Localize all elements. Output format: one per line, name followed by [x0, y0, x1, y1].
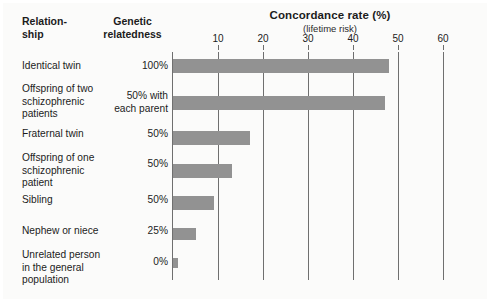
x-axis-tick-mark-30 — [308, 45, 309, 50]
row-genetic-relatedness-5: 25% — [96, 225, 168, 238]
row-label-6-line-3: population — [22, 274, 117, 287]
x-axis-tick-label-20: 20 — [257, 33, 268, 44]
x-axis-tick-label-30: 30 — [302, 33, 313, 44]
bar-3 — [173, 164, 232, 178]
row-genetic-relatedness-1-line-2: each parent — [96, 103, 168, 116]
row-genetic-relatedness-6-line-1: 0% — [96, 256, 168, 269]
bar-6 — [173, 258, 178, 268]
row-label-3-line-3: patient — [22, 177, 117, 190]
row-genetic-relatedness-3: 50% — [96, 158, 168, 171]
gridline-30 — [308, 52, 309, 280]
row-genetic-relatedness-4-line-1: 50% — [96, 194, 168, 207]
x-axis-tick-mark-20 — [263, 45, 264, 50]
x-axis-tick-label-40: 40 — [347, 33, 358, 44]
row-genetic-relatedness-2-line-1: 50% — [96, 128, 168, 141]
x-axis-tick-mark-10 — [218, 45, 219, 50]
x-axis-tick-label-60: 60 — [437, 33, 448, 44]
row-genetic-relatedness-1-line-1: 50% with — [96, 90, 168, 103]
row-genetic-relatedness-2: 50% — [96, 128, 168, 141]
x-axis-tick-label-50: 50 — [392, 33, 403, 44]
row-genetic-relatedness-3-line-1: 50% — [96, 158, 168, 171]
bar-1 — [173, 96, 385, 110]
row-genetic-relatedness-1: 50% witheach parent — [96, 90, 168, 115]
bar-5 — [173, 228, 196, 240]
x-axis-tick-mark-60 — [443, 45, 444, 50]
x-axis-tick-mark-50 — [398, 45, 399, 50]
x-axis-tick-label-10: 10 — [212, 33, 223, 44]
bar-4 — [173, 196, 214, 210]
gridline-20 — [263, 52, 264, 280]
gridline-50 — [398, 52, 399, 280]
row-genetic-relatedness-4: 50% — [96, 194, 168, 207]
gridline-40 — [353, 52, 354, 280]
bar-2 — [173, 131, 250, 145]
row-genetic-relatedness-5-line-1: 25% — [96, 225, 168, 238]
row-genetic-relatedness-0-line-1: 100% — [96, 60, 168, 73]
x-axis-tick-mark-40 — [353, 45, 354, 50]
row-genetic-relatedness-0: 100% — [96, 60, 168, 73]
bar-0 — [173, 59, 389, 73]
gridline-60 — [443, 52, 444, 280]
concordance-rate-chart: Relation-ship Geneticrelatedness Concord… — [0, 0, 492, 303]
row-genetic-relatedness-6: 0% — [96, 256, 168, 269]
